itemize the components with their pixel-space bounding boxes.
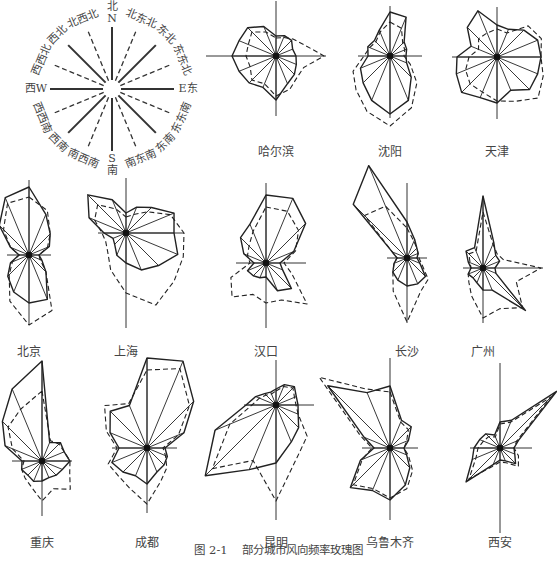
figure-caption-text: 部分城市风向频率玫瑰图 xyxy=(242,543,363,557)
wind-rose-figure xyxy=(0,0,557,562)
city-label: 广州 xyxy=(471,342,495,359)
city-label: 上海 xyxy=(114,342,138,359)
city-label: 哈尔滨 xyxy=(258,142,294,159)
city-label: 重庆 xyxy=(30,533,54,550)
compass-spoke xyxy=(55,92,104,112)
compass-spoke xyxy=(115,32,135,81)
compass-spoke xyxy=(88,32,108,81)
compass-spoke xyxy=(118,95,155,132)
wind-rose-4 xyxy=(88,178,184,328)
compass-label: E东 xyxy=(178,83,197,95)
figure-number: 图 2-1 xyxy=(194,543,227,557)
compass-spoke xyxy=(68,45,105,82)
city-label: 成都 xyxy=(135,533,159,550)
wind-rose-charts xyxy=(0,1,557,533)
wind-rose-12 xyxy=(466,363,557,533)
wind-rose-8 xyxy=(2,361,72,516)
city-label: 天津 xyxy=(485,142,509,159)
compass-spoke xyxy=(120,65,169,85)
wind-rose-6 xyxy=(353,166,428,323)
compass-legend xyxy=(50,27,174,151)
compass-spoke xyxy=(55,65,104,85)
city-label: 西安 xyxy=(488,533,512,550)
city-label: 汉口 xyxy=(254,342,278,359)
compass-spoke xyxy=(88,97,108,146)
wind-rose-5 xyxy=(231,183,307,328)
compass-label: S南 xyxy=(107,153,118,177)
city-label: 北京 xyxy=(17,342,41,359)
compass-label: 北N xyxy=(107,1,118,25)
wind-rose-11 xyxy=(319,358,418,520)
wind-rose-7 xyxy=(463,196,543,323)
city-label: 沈阳 xyxy=(378,142,402,159)
compass-spoke xyxy=(115,97,135,146)
city-label: 长沙 xyxy=(395,342,419,359)
city-label: 乌鲁木齐 xyxy=(366,533,414,550)
compass-label: 西W xyxy=(25,83,47,95)
compass-spoke xyxy=(68,95,105,132)
compass-spoke xyxy=(120,92,169,112)
wind-rose-2 xyxy=(452,7,543,119)
wind-rose-1 xyxy=(353,6,422,126)
wind-rose-10 xyxy=(205,360,314,520)
wind-rose-0 xyxy=(206,1,326,116)
wind-rose-9 xyxy=(105,358,194,513)
figure-caption: 图 2-1部分城市风向频率玫瑰图 xyxy=(194,541,362,557)
wind-rose-3 xyxy=(0,180,52,325)
compass-spoke xyxy=(118,45,155,82)
